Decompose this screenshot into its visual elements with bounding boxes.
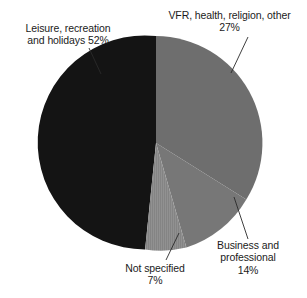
- pie-label-leisure-recreation-and-holidays: Leisure, recreation and holidays 52%: [4, 22, 132, 47]
- pie-label-not-specified: Not specified 7%: [103, 262, 207, 287]
- pie-slice-leisure-recreation-and-holidays[interactable]: [38, 35, 156, 249]
- pie-label-business-and-professional: Business and professional 14%: [196, 239, 300, 276]
- pie-label-vfr-health-religion-other: VFR, health, religion, other 27%: [152, 9, 307, 34]
- leader-line-vfr: [231, 37, 248, 73]
- pie-chart: Leisure, recreation and holidays 52% VFR…: [0, 0, 307, 298]
